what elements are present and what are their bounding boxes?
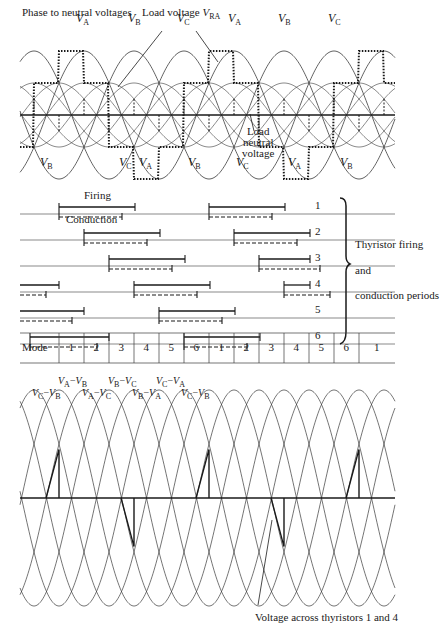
inverter-waveform-figure <box>0 0 448 628</box>
mode-cell: 2 <box>94 342 100 353</box>
brace-text-line2: and <box>355 265 371 276</box>
bottom-caption: Voltage across thyristors 1 and 4 <box>255 612 398 623</box>
phase-label: VC <box>177 12 190 27</box>
phase-label: VB <box>278 12 291 27</box>
mode-cell: 1 <box>219 342 225 353</box>
line-voltage-label: VC−VB <box>32 388 61 401</box>
mode-cell: 3 <box>119 342 125 353</box>
thyristor-voltage-spike <box>121 498 134 547</box>
caption-pointer-line <box>258 520 272 605</box>
mode-cell: 1 <box>374 342 380 353</box>
vra-pointer-line <box>118 31 162 87</box>
phase-label: VA <box>288 156 301 171</box>
phase-label: VC <box>119 156 132 171</box>
thyristor-voltage-spike <box>346 449 359 498</box>
phase-label: VA <box>76 12 89 27</box>
thyristor-number-1: 1 <box>315 200 321 211</box>
phase-label: VB <box>40 156 53 171</box>
load-neutral-voltage-label: Loadneutralvoltage <box>242 126 274 159</box>
mode-cell: 5 <box>169 342 175 353</box>
line-voltage-label: VB−VA <box>132 388 161 401</box>
phase-label: VA <box>139 156 152 171</box>
mode-cell: 4 <box>144 342 150 353</box>
line-voltage-label: VA−VC <box>82 388 111 401</box>
thyristor-number-3: 3 <box>315 252 321 263</box>
brace-text-line1: Thyristor firing <box>355 239 423 250</box>
thyristor-number-4: 4 <box>315 278 321 289</box>
phase-label: VB <box>340 156 353 171</box>
line-voltage-label: VC−VB <box>181 388 210 401</box>
brace-text-line3: conduction periods <box>355 290 439 301</box>
phase-label: VB <box>188 156 201 171</box>
mode-cell: 3 <box>269 342 275 353</box>
mode-cell: 4 <box>294 342 300 353</box>
thyristor-number-2: 2 <box>315 226 321 237</box>
thyristor-voltage-spike <box>271 498 284 547</box>
vra-pointer-line-2 <box>196 31 218 62</box>
phase-label: VA <box>228 12 241 27</box>
thyristor-voltage-spike <box>196 449 209 498</box>
thyristor-number-6: 6 <box>315 330 321 341</box>
firing-label: Firing <box>84 190 111 201</box>
conduction-label: Conduction <box>66 214 117 225</box>
mode-cell: 6 <box>344 342 350 353</box>
brace-icon <box>340 198 350 344</box>
mode-cell: 5 <box>319 342 325 353</box>
mode-cell: 2 <box>244 342 250 353</box>
mode-cell: 6 <box>194 342 200 353</box>
mode-cell: 1 <box>69 342 75 353</box>
thyristor-number-5: 5 <box>315 304 321 315</box>
phase-label: VC <box>328 12 341 27</box>
mode-header: Mode <box>22 342 48 353</box>
phase-label: VB <box>128 12 141 27</box>
thyristor-voltage-spike <box>46 449 59 498</box>
